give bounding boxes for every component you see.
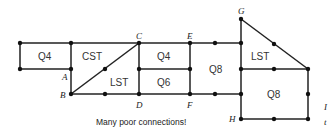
element-label-q6: Q6 [157, 77, 171, 88]
diagram-caption: Many poor connections! [96, 117, 186, 127]
node-label-d: D [135, 100, 143, 110]
cropped-text-2: t [324, 117, 327, 127]
element-label-lst-right: LST [251, 51, 269, 62]
node-label-g: G [238, 6, 245, 16]
mesh-diagram: Q4 CST LST Q4 Q6 Q8 LST Q8 A B C D E F G… [0, 0, 328, 131]
node-label-a: A [61, 72, 68, 82]
node-label-c: C [136, 31, 143, 41]
cropped-text-1: I [323, 102, 328, 112]
element-label-cst: CST [82, 51, 102, 62]
element-label-lst-left: LST [110, 77, 128, 88]
element-label-q8-mid: Q8 [209, 64, 223, 75]
element-label-q8-right: Q8 [267, 89, 281, 100]
node-label-b: B [60, 90, 66, 100]
node-label-f: F [186, 100, 193, 110]
node-label-e: E [186, 31, 193, 41]
element-label-q4-mid: Q4 [157, 51, 171, 62]
element-label-q4-left: Q4 [38, 51, 52, 62]
node-label-h: H [228, 114, 236, 124]
